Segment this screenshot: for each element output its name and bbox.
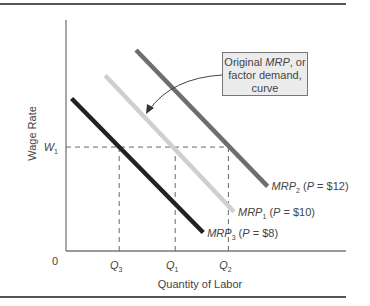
origin-label: 0: [52, 255, 58, 267]
curve-mrp3: [72, 99, 204, 233]
chart: 0Quantity of LaborWage RateW1Q3Q1Q2MRP2 …: [0, 0, 370, 306]
x-axis-label: Quantity of Labor: [158, 278, 243, 290]
curve-label-mrp2: MRP2 (P = $12): [272, 180, 349, 194]
curve-label-mrp3: MRP3 (P = $8): [207, 227, 278, 241]
annotation-arrow: [149, 75, 222, 110]
annotation-text: , or: [290, 56, 306, 68]
wage-label: W1: [44, 141, 58, 155]
annotation-text: factor demand,: [223, 69, 307, 82]
curve-label-mrp1: MRP1 (P = $10): [238, 206, 315, 220]
curve-mrp1: [105, 75, 234, 211]
y-axis-label: Wage Rate: [26, 106, 38, 161]
quantity-tick-label: Q2: [219, 259, 232, 273]
annotation-text: curve: [223, 82, 307, 95]
quantity-tick-label: Q3: [110, 259, 123, 273]
annotation-box: Original MRP, or factor demand, curve: [222, 52, 308, 96]
quantity-tick-label: Q1: [166, 259, 179, 273]
annotation-text: Original: [224, 56, 265, 68]
annotation-text-italic: MRP: [265, 56, 289, 68]
